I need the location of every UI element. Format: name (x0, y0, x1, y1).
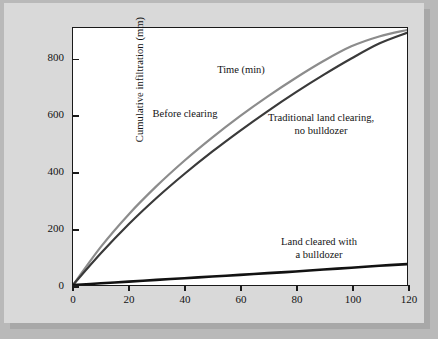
x-tick-label: 100 (333, 293, 373, 305)
series-line (73, 264, 407, 285)
y-tick-mark (73, 115, 79, 117)
y-tick-label: 800 (48, 51, 65, 63)
annotation-bulldozer: Land cleared with a bulldozer (257, 236, 381, 262)
figure-panel: Cumulative infiltration (mm) 02004006008… (4, 3, 424, 323)
x-tick-label: 80 (277, 293, 317, 305)
x-tick-mark (296, 285, 298, 291)
y-tick-label: 200 (48, 222, 65, 234)
annotation-before-clearing: Before clearing (131, 108, 239, 121)
y-tick-label: 0 (59, 279, 65, 291)
x-tick-mark (352, 285, 354, 291)
y-tick-mark (73, 172, 79, 174)
y-tick-mark (73, 59, 79, 61)
y-axis-title: Cumulative infiltration (mm) (134, 0, 145, 190)
x-tick-mark (72, 285, 74, 291)
figure-root: Cumulative infiltration (mm) 02004006008… (0, 0, 438, 339)
y-tick-mark (73, 229, 79, 231)
y-tick-label: 600 (48, 108, 65, 120)
x-tick-mark (240, 285, 242, 291)
x-tick-mark (408, 285, 410, 291)
x-tick-mark (184, 285, 186, 291)
x-tick-label: 0 (53, 293, 93, 305)
plot-frame: Cumulative infiltration (mm) 02004006008… (72, 27, 408, 286)
x-axis-title: Time (min) (73, 64, 409, 75)
x-tick-mark (128, 285, 130, 291)
y-tick-label: 400 (48, 165, 65, 177)
x-tick-label: 40 (165, 293, 205, 305)
x-tick-label: 20 (109, 293, 149, 305)
annotation-traditional: Traditional land clearing, no bulldozer (255, 112, 387, 138)
x-tick-label: 120 (389, 293, 429, 305)
y-tick-mark (73, 286, 79, 288)
x-tick-label: 60 (221, 293, 261, 305)
